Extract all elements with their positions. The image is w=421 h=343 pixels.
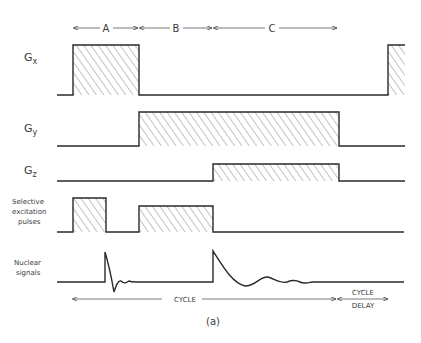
gy-label: Gy [24, 122, 38, 137]
selective-label-line2: excitation [12, 208, 46, 216]
selective-label-line1: Selective [12, 198, 44, 206]
cycle-arrows: CYCLE CYCLE DELAY [73, 289, 388, 310]
nuclear-label-line1: Nuclear [14, 259, 41, 267]
row-selective-excitation: Selective excitation pulses [12, 198, 404, 232]
segment-b-label: B [173, 23, 180, 34]
segment-a-label: A [103, 23, 110, 34]
cycle-delay-label-1: CYCLE [352, 289, 374, 297]
row-nuclear-signals: Nuclear signals [14, 251, 404, 292]
row-gy: Gy [24, 112, 405, 146]
row-gx: Gx [24, 45, 405, 95]
pulse-sequence-diagram: A B C Gx Gy Gz Selective excitation puls… [0, 0, 421, 343]
nuclear-waveform [57, 251, 404, 292]
nuclear-label-line2: signals [16, 269, 41, 277]
gx-label: Gx [24, 51, 38, 66]
segment-c-label: C [269, 23, 276, 34]
row-gz: Gz [24, 164, 405, 181]
cycle-label: CYCLE [174, 296, 196, 304]
segment-arrows: A B C [74, 23, 337, 34]
cycle-delay-label-2: DELAY [352, 302, 375, 310]
selective-label-line3: pulses [18, 218, 41, 226]
figure-caption: (a) [206, 316, 220, 327]
selective-waveform [57, 198, 404, 232]
gz-label: Gz [24, 164, 37, 179]
